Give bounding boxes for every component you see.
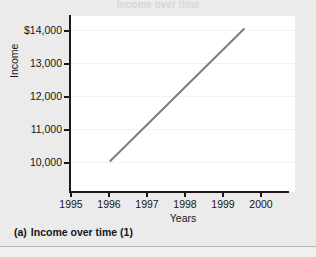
figure-panel: Income over time $14,000 13,000 12,000 1…: [0, 0, 316, 257]
y-axis-tick-label: 12,000: [0, 91, 62, 102]
clipped-chart-title: Income over time: [0, 0, 316, 9]
x-axis-tick-label: 2000: [239, 199, 283, 210]
x-axis-spine: [69, 191, 289, 193]
gridline: [71, 96, 295, 97]
y-axis-tick-label: $14,000: [0, 25, 62, 36]
bottom-margin-strip: [0, 247, 316, 257]
x-axis-title: Years: [71, 212, 295, 224]
gridline: [71, 30, 295, 31]
x-axis-tick: [70, 191, 72, 197]
y-axis-tick: [64, 96, 71, 98]
caption-letter: (a): [14, 226, 27, 238]
x-axis-tick: [146, 191, 148, 197]
y-axis-tick: [64, 162, 71, 164]
y-axis-tick: [64, 30, 71, 32]
plot-area: [71, 16, 295, 192]
y-axis-tick-label: 10,000: [0, 157, 62, 168]
gridline: [71, 129, 295, 130]
figure-caption: (a)Income over time (1): [14, 226, 133, 238]
gridline: [71, 162, 295, 163]
x-axis-tick: [108, 191, 110, 197]
gridline: [71, 63, 295, 64]
x-axis-tick: [222, 191, 224, 197]
y-axis-title: Income: [8, 44, 20, 78]
y-axis-tick-label: 11,000: [0, 124, 62, 135]
y-axis-tick: [64, 63, 71, 65]
x-axis-tick: [260, 191, 262, 197]
y-axis-spine: [69, 15, 71, 193]
y-axis-tick: [64, 129, 71, 131]
caption-text: Income over time (1): [31, 226, 133, 238]
x-axis-tick: [184, 191, 186, 197]
